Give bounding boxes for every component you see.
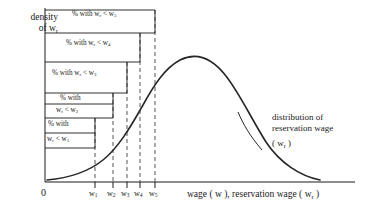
bracket-w3-sub-n: 3 [94, 72, 96, 77]
bracket-w4-sub-n: 4 [108, 42, 110, 47]
reservation-wage-density-figure: density of wr % with wr < w5 % with wr <… [0, 0, 373, 215]
x-axis-ticks [95, 182, 155, 188]
y-axis-label-line1: density [31, 12, 58, 22]
bracket-label-w4: % with wr < w4 [66, 40, 110, 48]
bracket-label-w1-line2: wr < w1 [47, 136, 69, 144]
bracket-w1-sub-r: r [52, 138, 54, 143]
origin-label: 0 [41, 188, 46, 199]
bracket-label-w2-line2: wr < w2 [56, 107, 78, 115]
tick-label-w1: w1 [89, 190, 98, 199]
bracket-w2-sub-r: r [61, 109, 63, 114]
bracket-label-w3: % with wr < w3 [52, 70, 96, 78]
bracket-w2-sub-n: 2 [76, 109, 78, 114]
tick-label-w3: w3 [121, 190, 130, 199]
tick-label-w4: w4 [134, 190, 143, 199]
tick-label-w2: w2 [107, 190, 116, 199]
tick-label-w5: w5 [149, 190, 158, 199]
curve-annotation: distribution of reservation wage [272, 112, 333, 135]
x-axis-label-subscript: r [312, 193, 314, 200]
bracket-label-w2-line1: % with [60, 95, 81, 103]
y-axis-label-subscript: r [56, 27, 58, 34]
curve-annotation-line3: ( wr ) [272, 138, 291, 149]
bracket-label-w5: % with wr < w5 [72, 11, 116, 19]
bracket-label-w1-line1: % with [48, 121, 69, 129]
curve-annotation-line1: distribution of [272, 112, 323, 122]
annotation-leader-line [238, 112, 262, 150]
bracket-w5-sub-r: r [100, 13, 102, 18]
curve-annotation-subscript: r [284, 143, 286, 149]
y-axis-label-line2: of w [39, 23, 56, 33]
x-axis-label: wage ( w ), reservation wage ( wr ) [187, 189, 319, 199]
bracket-w4-sub-r: r [94, 42, 96, 47]
bracket-w5-sub-n: 5 [114, 13, 116, 18]
bracket-w3-sub-r: r [80, 72, 82, 77]
y-axis-label: density of wr [8, 12, 58, 35]
curve-annotation-line2: reservation wage [272, 123, 333, 133]
bracket-w1-sub-n: 1 [67, 138, 69, 143]
dashed-guide-lines [95, 10, 155, 182]
